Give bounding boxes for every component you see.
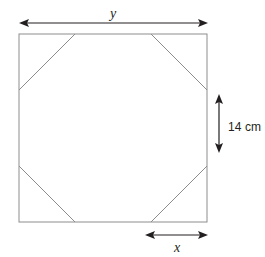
dimension-arrow-right bbox=[215, 94, 223, 153]
corner-cut-top-left bbox=[19, 34, 75, 90]
corner-cut-bottom-right bbox=[151, 166, 207, 222]
geometry-figure: y 14 cm x bbox=[0, 0, 265, 257]
dimension-label-height: 14 cm bbox=[228, 121, 261, 133]
figure-canvas bbox=[0, 0, 265, 257]
dimension-label-y: y bbox=[0, 7, 226, 21]
dimension-label-x: x bbox=[146, 241, 208, 255]
corner-cut-bottom-left bbox=[19, 166, 75, 222]
dimension-arrow-bottom bbox=[145, 231, 208, 239]
corner-cut-top-right bbox=[151, 34, 207, 90]
